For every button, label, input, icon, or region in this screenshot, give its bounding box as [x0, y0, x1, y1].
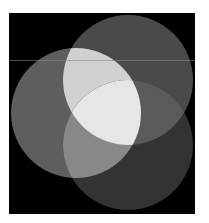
venn-diagram — [0, 0, 209, 223]
venn-svg — [0, 0, 209, 223]
